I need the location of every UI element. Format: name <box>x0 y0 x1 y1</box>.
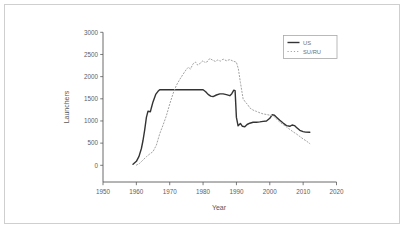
series-line-us <box>133 90 310 165</box>
y-tick-label: 1000 <box>84 117 99 124</box>
y-axis-ticks: 050010001500200025003000 <box>84 29 103 169</box>
x-tick-label: 1970 <box>163 188 178 195</box>
series-line-su-ru <box>136 59 309 166</box>
x-tick-label: 2020 <box>329 188 344 195</box>
y-tick-label: 1500 <box>84 95 99 102</box>
x-tick-label: 1950 <box>96 188 111 195</box>
data-series <box>133 59 310 166</box>
y-tick-label: 2000 <box>84 73 99 80</box>
y-tick-label: 0 <box>94 162 98 169</box>
launchers-line-chart: 050010001500200025003000 195019601970198… <box>0 0 404 232</box>
x-tick-label: 1960 <box>129 188 144 195</box>
x-axis-title: Year <box>212 204 227 211</box>
x-tick-label: 1980 <box>196 188 211 195</box>
y-tick-label: 500 <box>87 139 98 146</box>
x-tick-label: 1990 <box>229 188 244 195</box>
y-tick-label: 3000 <box>84 29 99 36</box>
x-tick-label: 2000 <box>263 188 278 195</box>
legend-suru-label: SU/RU <box>303 49 321 55</box>
x-axis-ticks: 19501960197019801990200020102020 <box>96 182 344 195</box>
x-tick-label: 2010 <box>296 188 311 195</box>
legend: US SU/RU <box>284 36 338 59</box>
legend-us-label: US <box>303 40 311 46</box>
screenshot-root: 050010001500200025003000 195019601970198… <box>0 0 404 232</box>
y-tick-label: 2500 <box>84 51 99 58</box>
y-axis-title: Launchers <box>63 90 70 123</box>
